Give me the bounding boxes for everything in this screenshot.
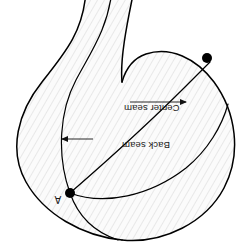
dot-point-a [65,188,75,198]
point-a-label: A [54,194,61,205]
dot-upper-right [202,53,212,63]
center-seam-label: Center seam [124,103,179,114]
pattern-drawing: Center seam Back seam A [0,0,246,243]
pattern-diagram-figure: Center seam Back seam A [0,0,246,243]
back-seam-label: Back seam [122,140,170,151]
center-seam-annotation: Center seam [124,102,186,114]
